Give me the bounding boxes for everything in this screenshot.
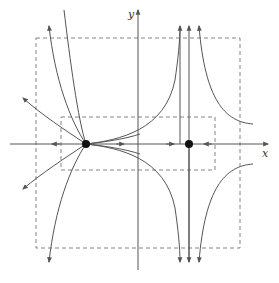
left-equilibrium-point [82,140,90,148]
x-axis-label: x [262,147,269,160]
right-equilibrium-point [185,140,193,148]
trajectory-lower-right [86,144,180,262]
trajectory-upper-right [86,26,180,144]
trajectory-lower-right-branch [199,164,253,262]
trajectory-lower-left-shallow [23,144,86,189]
trajectory-upper-right-branch [199,26,253,124]
y-axis-label: y [127,8,135,21]
phase-portrait-diagram: y x [0,0,279,283]
trajectory-lower-left-steep [49,144,86,262]
trajectory-upper-left-shallow [23,98,86,144]
trajectory-upper-left-steep [49,26,86,144]
